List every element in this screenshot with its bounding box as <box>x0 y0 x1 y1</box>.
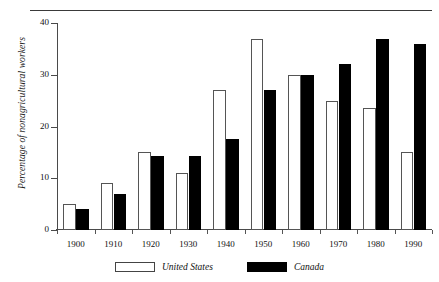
plot-area: 0102030401900191019201930194019501960197… <box>57 23 432 230</box>
x-axis-tick-label: 1960 <box>281 239 321 249</box>
bar-canada-1960 <box>301 75 314 230</box>
bar-united-states-1950 <box>251 39 264 230</box>
y-axis-tick-label: 10 <box>27 172 49 182</box>
bar-canada-1950 <box>264 90 277 230</box>
bar-united-states-1920 <box>138 152 151 230</box>
top-divider-rule <box>30 10 432 11</box>
legend-swatch-canada <box>247 262 287 272</box>
bar-canada-1980 <box>376 39 389 230</box>
bar-canada-1930 <box>189 156 202 230</box>
x-axis-tick <box>57 230 58 234</box>
bar-united-states-1900 <box>63 204 76 230</box>
legend-entry-canada: Canada <box>247 262 324 272</box>
bar-united-states-1970 <box>326 101 339 230</box>
y-axis-tick-label: 40 <box>27 17 49 27</box>
bar-canada-1920 <box>151 156 164 230</box>
y-axis-tick <box>51 127 57 128</box>
bar-canada-1940 <box>226 139 239 230</box>
x-axis-tick-label: 1990 <box>393 239 433 249</box>
chart-figure: Percentage of nonagricultural workers 01… <box>0 0 439 282</box>
legend-label-canada: Canada <box>294 262 324 272</box>
x-axis-tick-label: 1920 <box>131 239 171 249</box>
x-axis-tick <box>357 230 358 234</box>
y-axis-tick <box>51 23 57 24</box>
legend-label-united-states: United States <box>162 262 213 272</box>
x-axis-tick <box>320 230 321 234</box>
legend-swatch-united-states <box>115 262 155 272</box>
x-axis-tick <box>395 230 396 234</box>
y-axis-tick-label: 0 <box>27 224 49 234</box>
bar-canada-1970 <box>339 64 352 230</box>
x-axis-tick <box>95 230 96 234</box>
x-axis-tick <box>432 230 433 234</box>
y-axis-title: Percentage of nonagricultural workers <box>17 18 27 208</box>
x-axis-tick <box>132 230 133 234</box>
x-axis-tick-label: 1910 <box>93 239 133 249</box>
x-axis-tick-label: 1900 <box>56 239 96 249</box>
x-axis-tick-label: 1980 <box>356 239 396 249</box>
x-axis-tick-label: 1930 <box>168 239 208 249</box>
bar-canada-1990 <box>414 44 427 230</box>
chart-legend: United States Canada <box>0 262 439 272</box>
x-axis-tick-label: 1940 <box>206 239 246 249</box>
bar-united-states-1940 <box>213 90 226 230</box>
bar-united-states-1960 <box>288 75 301 230</box>
bar-united-states-1980 <box>363 108 376 230</box>
x-axis-tick <box>282 230 283 234</box>
x-axis-tick <box>207 230 208 234</box>
y-axis-tick <box>51 75 57 76</box>
y-axis-tick-label: 20 <box>27 121 49 131</box>
y-axis-line <box>57 23 58 230</box>
bar-united-states-1930 <box>176 173 189 230</box>
y-axis-tick <box>51 178 57 179</box>
x-axis-tick-label: 1970 <box>318 239 358 249</box>
bar-united-states-1990 <box>401 152 414 230</box>
x-axis-tick <box>170 230 171 234</box>
bar-canada-1900 <box>76 209 89 230</box>
legend-entry-united-states: United States <box>115 262 213 272</box>
bar-united-states-1910 <box>101 183 114 230</box>
bar-canada-1910 <box>114 194 127 230</box>
x-axis-tick-label: 1950 <box>243 239 283 249</box>
y-axis-tick-label: 30 <box>27 69 49 79</box>
x-axis-tick <box>245 230 246 234</box>
